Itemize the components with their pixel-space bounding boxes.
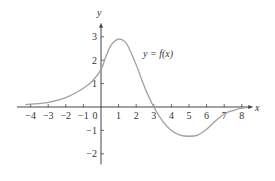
x-axis-arrow-icon	[248, 105, 253, 109]
x-tick-label: 3	[151, 110, 156, 121]
y-tick-label: 2	[92, 55, 97, 66]
x-tick-label: 2	[134, 110, 139, 121]
y-axis-arrow-icon	[99, 23, 103, 28]
y-tick-label: −1	[86, 125, 97, 136]
y-tick-label: 3	[92, 31, 97, 42]
function-graph: −4−3−2−1012345678−2−1123 x y y = f(x)	[0, 0, 275, 181]
tick-marks: −4−3−2−1012345678−2−1123	[25, 31, 244, 159]
axes	[17, 23, 253, 165]
function-curve	[25, 39, 247, 136]
x-tick-label: −2	[60, 110, 71, 121]
x-tick-label: −4	[25, 110, 36, 121]
x-tick-label: 4	[169, 110, 174, 121]
x-tick-label: 5	[187, 110, 192, 121]
y-axis-label: y	[96, 7, 102, 18]
x-tick-label: 8	[239, 110, 244, 121]
x-tick-label: 1	[116, 110, 121, 121]
x-tick-label: 6	[204, 110, 209, 121]
x-tick-label: −1	[78, 110, 89, 121]
x-axis-label: x	[254, 102, 260, 113]
x-tick-label: −3	[43, 110, 54, 121]
curve-annotation: y = f(x)	[142, 48, 174, 60]
y-tick-label: −2	[86, 148, 97, 159]
x-tick-label: 0	[93, 110, 98, 121]
